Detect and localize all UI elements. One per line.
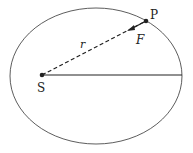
label-f: F — [135, 33, 145, 47]
orbit-ellipse — [10, 8, 182, 144]
label-r: r — [80, 38, 86, 51]
label-s: S — [37, 81, 45, 95]
orbit-point-p — [144, 19, 149, 24]
label-p: P — [150, 8, 158, 22]
orbit-diagram: S P r F — [0, 0, 193, 153]
force-arrowhead — [127, 25, 135, 31]
focus-point-s — [40, 73, 45, 78]
